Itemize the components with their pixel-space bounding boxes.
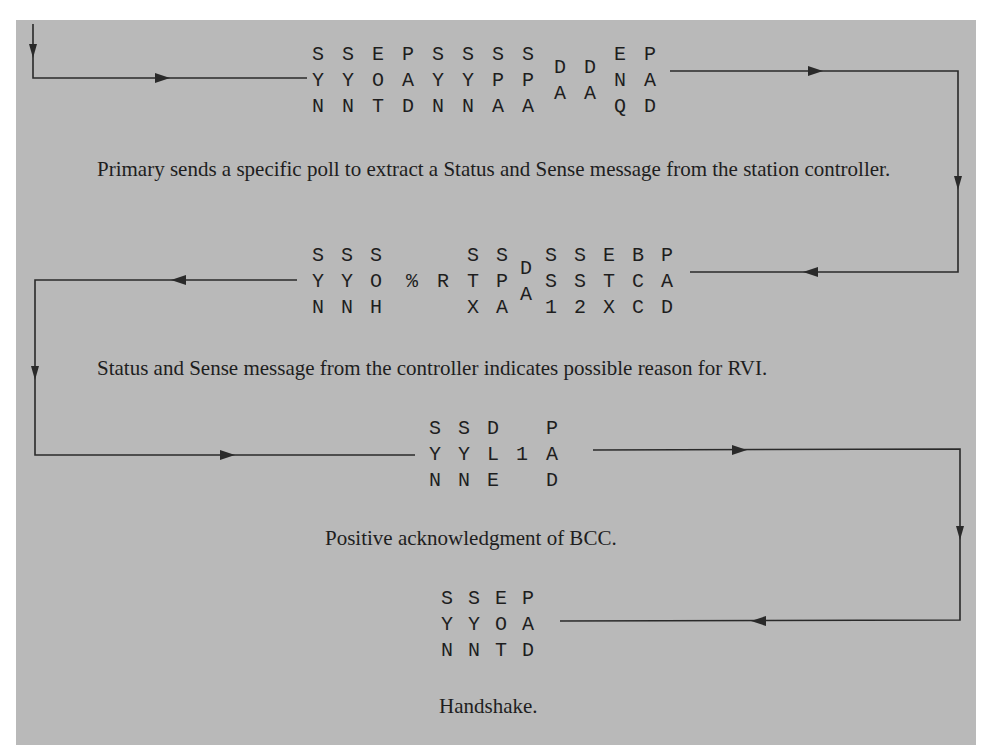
frame-2-characters: SYN SYN SOH % R STX SPA DA SS1 SS2 ETX B… bbox=[308, 243, 688, 321]
frame-3-characters: SYN SYN DLE 1 PAD bbox=[425, 416, 585, 494]
char-column: SYN bbox=[337, 243, 357, 321]
char-column: DA bbox=[550, 55, 570, 107]
char-column: SYN bbox=[428, 42, 448, 120]
char-column: SYN bbox=[308, 42, 328, 120]
char-column: SYN bbox=[338, 42, 358, 120]
char-column: SOH bbox=[366, 243, 386, 321]
char-column: ENQ bbox=[610, 42, 630, 120]
char-column: DA bbox=[516, 256, 536, 308]
char-column: ETX bbox=[599, 243, 619, 321]
frame-4-characters: SYN SYN EOT PAD bbox=[437, 586, 567, 664]
char-column: PAD bbox=[657, 243, 677, 321]
char-column: 1 bbox=[512, 416, 532, 494]
char-column: % bbox=[402, 243, 422, 321]
frame-2-caption: Status and Sense message from the contro… bbox=[97, 355, 957, 381]
frame-4-caption: Handshake. bbox=[439, 693, 538, 719]
frame-1-characters: SYN SYN EOT PAD SYN SYN SPA SPA DA DA EN… bbox=[308, 42, 668, 120]
char-column: SYN bbox=[437, 586, 457, 664]
frame-3-caption: Positive acknowledgment of BCC. bbox=[325, 525, 617, 551]
char-column: SS1 bbox=[541, 243, 561, 321]
char-column: SYN bbox=[425, 416, 445, 494]
char-column: PAD bbox=[518, 586, 538, 664]
char-column: R bbox=[433, 243, 453, 321]
char-column: SYN bbox=[308, 243, 328, 321]
char-column: SYN bbox=[458, 42, 478, 120]
char-column: SYN bbox=[464, 586, 484, 664]
char-column: PAD bbox=[640, 42, 660, 120]
char-column: SPA bbox=[488, 42, 508, 120]
char-column: PAD bbox=[398, 42, 418, 120]
char-column: DA bbox=[580, 55, 600, 107]
char-column: DLE bbox=[483, 416, 503, 494]
char-column: SS2 bbox=[570, 243, 590, 321]
char-column: PAD bbox=[542, 416, 562, 494]
char-column: SPA bbox=[518, 42, 538, 120]
char-column: SYN bbox=[454, 416, 474, 494]
char-column: SPA bbox=[492, 243, 512, 321]
char-column: EOT bbox=[491, 586, 511, 664]
frame-1-caption: Primary sends a specific poll to extract… bbox=[97, 156, 939, 182]
char-column: EOT bbox=[368, 42, 388, 120]
char-column: STX bbox=[463, 243, 483, 321]
char-column: BCC bbox=[628, 243, 648, 321]
